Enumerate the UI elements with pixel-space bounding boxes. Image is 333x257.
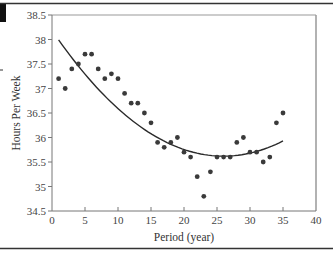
header-block <box>0 3 6 22</box>
data-point <box>175 135 180 140</box>
data-point <box>274 120 279 125</box>
x-tick-label: 25 <box>212 214 224 226</box>
data-point <box>228 155 233 160</box>
data-point <box>116 76 121 81</box>
data-point <box>241 135 246 140</box>
y-tick-label: 36 <box>35 132 47 144</box>
data-point <box>76 62 81 67</box>
y-tick-label: 35 <box>35 181 47 193</box>
data-point <box>261 160 266 165</box>
data-point <box>102 76 107 81</box>
x-tick-label: 35 <box>278 214 290 226</box>
data-point <box>267 155 272 160</box>
y-axis-ticks: 34.53535.53636.53737.53838.5 <box>27 9 52 217</box>
data-point <box>281 111 286 116</box>
data-point <box>195 174 200 179</box>
data-point <box>142 111 147 116</box>
scatter-chart: 34.53535.53636.53737.53838.5 05101520253… <box>0 0 333 257</box>
y-axis-title: Hours Per Week <box>10 75 22 150</box>
y-tick-label: 34.5 <box>27 205 47 217</box>
data-points <box>56 52 285 199</box>
x-tick-label: 40 <box>311 214 323 226</box>
x-tick-label: 20 <box>179 214 191 226</box>
plot-frame <box>52 15 316 211</box>
data-point <box>89 52 94 57</box>
trend-curve <box>59 40 283 156</box>
data-point <box>96 67 101 72</box>
y-tick-label: 38 <box>35 34 47 46</box>
data-point <box>168 140 173 145</box>
data-point <box>201 194 206 199</box>
x-axis-ticks: 0510152025303540 <box>49 207 322 226</box>
y-tick-label: 36.5 <box>27 107 47 119</box>
data-point <box>221 155 226 160</box>
data-point <box>135 101 140 106</box>
data-point <box>162 145 167 150</box>
y-tick-label: 37 <box>35 83 47 95</box>
x-tick-label: 10 <box>113 214 125 226</box>
data-point <box>83 52 88 57</box>
data-point <box>122 91 127 96</box>
data-point <box>182 150 187 155</box>
data-point <box>234 140 239 145</box>
data-point <box>248 150 253 155</box>
data-point <box>155 140 160 145</box>
data-point <box>129 101 134 106</box>
data-point <box>254 150 259 155</box>
data-point <box>208 169 213 174</box>
data-point <box>149 120 154 125</box>
x-tick-label: 30 <box>245 214 257 226</box>
data-point <box>215 155 220 160</box>
x-axis-title: Period (year) <box>154 231 215 244</box>
y-tick-label: 38.5 <box>27 9 47 21</box>
data-point <box>63 86 68 91</box>
y-tick-label: 37.5 <box>27 58 47 70</box>
data-point <box>69 67 74 72</box>
x-tick-label: 15 <box>146 214 158 226</box>
y-tick-label: 35.5 <box>27 156 47 168</box>
x-tick-label: 0 <box>49 214 55 226</box>
data-point <box>188 155 193 160</box>
x-tick-label: 5 <box>82 214 88 226</box>
data-point <box>56 76 61 81</box>
data-point <box>109 71 114 76</box>
